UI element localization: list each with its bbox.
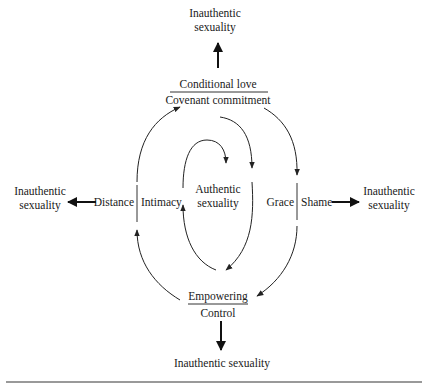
right-outcome-line1: Inauthentic (363, 185, 415, 197)
top-outcome-line1: Inauthentic (189, 7, 241, 19)
authentic-label-line1: Authentic (195, 183, 240, 195)
conditional-love-label: Conditional love (180, 78, 257, 90)
intimacy-label: Intimacy (141, 196, 182, 209)
shame-label: Shame (301, 196, 332, 208)
authentic-label-line2: sexuality (197, 197, 239, 210)
spiral-outer-arc-down (220, 117, 252, 168)
distance-label: Distance (94, 196, 134, 208)
top-outcome-line2: sexuality (194, 21, 236, 34)
left-outcome-line2: sexuality (19, 199, 61, 212)
sexuality-cycle-diagram: Inauthentic sexuality Conditional love C… (0, 0, 426, 387)
bottom-outcome: Inauthentic sexuality (174, 357, 270, 370)
covenant-commitment-label: Covenant commitment (165, 94, 271, 106)
spiral-outer-right-descent (226, 182, 253, 270)
spiral-inner-arc-down (183, 140, 226, 188)
empowering-label: Empowering (188, 290, 248, 303)
arrow-grace-to-empowering (257, 226, 297, 296)
arrow-empowering-to-intimacy (137, 230, 180, 300)
right-outcome-line2: sexuality (368, 199, 410, 212)
arrow-covenant-to-grace (264, 108, 297, 175)
control-label: Control (200, 307, 235, 319)
grace-label: Grace (267, 196, 294, 208)
left-outcome-line1: Inauthentic (14, 185, 66, 197)
spiral-inner-left-ascent (183, 205, 216, 270)
arrow-intimacy-to-covenant (137, 107, 180, 182)
